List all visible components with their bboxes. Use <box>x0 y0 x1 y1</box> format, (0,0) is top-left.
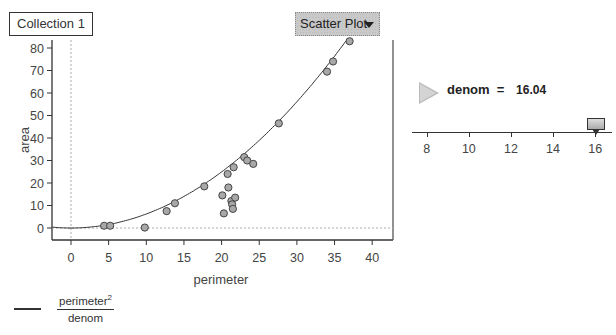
slider-tick-label: 8 <box>423 142 430 156</box>
data-point[interactable] <box>163 208 170 215</box>
svg-text:0: 0 <box>37 222 44 236</box>
svg-text:40: 40 <box>30 132 44 146</box>
svg-text:10: 10 <box>30 199 44 213</box>
y-axis: 01020304050607080 <box>30 42 52 236</box>
svg-text:30: 30 <box>30 154 44 168</box>
plot-type-dropdown[interactable]: Scatter Plot <box>295 12 380 36</box>
svg-text:20: 20 <box>30 177 44 191</box>
data-point[interactable] <box>329 58 336 65</box>
formula-fraction[interactable]: perimeter2 denom <box>57 293 114 324</box>
slider-tick-label: 16 <box>588 142 602 156</box>
data-point[interactable] <box>219 192 226 199</box>
play-animation-icon[interactable] <box>419 82 439 104</box>
data-point[interactable] <box>171 200 178 207</box>
slider-tick-label: 12 <box>504 142 518 156</box>
slider-tick <box>553 132 554 137</box>
svg-text:80: 80 <box>30 42 44 56</box>
y-axis-title: area <box>17 126 32 153</box>
data-point[interactable] <box>232 194 239 201</box>
svg-text:5: 5 <box>105 251 112 265</box>
slider-tick <box>511 132 512 137</box>
data-point[interactable] <box>346 38 353 45</box>
slider-tick-label: 10 <box>462 142 476 156</box>
slider-tick-label: 14 <box>546 142 560 156</box>
data-point[interactable] <box>220 210 227 217</box>
svg-text:10: 10 <box>139 251 153 265</box>
dropdown-triangle-icon <box>364 22 374 28</box>
denom-slider: denom = 16.04 810121416 <box>410 80 616 190</box>
x-axis-title: perimeter <box>194 272 250 287</box>
x-axis: 0510152025303540 <box>68 240 380 265</box>
slider-tick <box>469 132 470 137</box>
data-point[interactable] <box>225 184 232 191</box>
svg-text:70: 70 <box>30 64 44 78</box>
data-point[interactable] <box>201 183 208 190</box>
data-point[interactable] <box>275 120 282 127</box>
slider-thumb-pointer <box>592 129 600 135</box>
data-point[interactable] <box>323 68 330 75</box>
curve-swatch <box>14 308 41 310</box>
svg-text:20: 20 <box>215 251 229 265</box>
data-point[interactable] <box>229 205 236 212</box>
data-point[interactable] <box>224 170 231 177</box>
svg-text:50: 50 <box>30 109 44 123</box>
svg-text:0: 0 <box>68 251 75 265</box>
collection-label[interactable]: Collection 1 <box>9 12 93 36</box>
data-points[interactable] <box>101 38 354 232</box>
formula-denominator: denom <box>57 310 114 324</box>
function-curve[interactable] <box>52 41 346 228</box>
slider-label: denom = 16.04 <box>447 82 546 97</box>
data-point[interactable] <box>141 224 148 231</box>
svg-text:60: 60 <box>30 87 44 101</box>
data-point[interactable] <box>230 164 237 171</box>
svg-text:15: 15 <box>177 251 191 265</box>
data-point[interactable] <box>250 160 257 167</box>
plot-type-label: Scatter Plot <box>300 16 367 31</box>
data-point[interactable] <box>107 222 114 229</box>
svg-text:40: 40 <box>365 251 379 265</box>
slider-track[interactable] <box>412 132 612 133</box>
svg-text:35: 35 <box>328 251 342 265</box>
slider-tick <box>427 132 428 137</box>
svg-text:30: 30 <box>290 251 304 265</box>
svg-text:25: 25 <box>252 251 266 265</box>
formula-numerator: perimeter2 <box>57 293 114 309</box>
